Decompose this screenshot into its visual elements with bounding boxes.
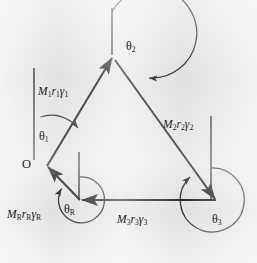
reference-lines-group — [34, 8, 211, 200]
vector-label-M3-magnitude: M — [117, 213, 127, 225]
angle-label-theta2: θ2 — [126, 40, 136, 54]
angle-label-thetaR: θR — [64, 203, 75, 217]
vector-label-M1: M1r1γ1 — [38, 86, 68, 99]
angle-label-thetaR-sub: R — [70, 208, 75, 217]
angle-arc-theta1 — [41, 115, 79, 128]
angle-label-theta1-sub: 1 — [45, 135, 49, 144]
vector-label-M3-gamma-sub: 3 — [144, 218, 148, 227]
vector-MR — [48, 167, 80, 200]
angle-arc-theta2 — [112, 0, 197, 78]
vector-label-MR-magnitude: M — [7, 208, 17, 220]
origin-label: O — [22, 158, 31, 171]
angle-label-theta2-sub: 2 — [132, 45, 136, 54]
vector-label-M2-gamma-sub: 2 — [190, 123, 194, 132]
angle-label-theta1: θ1 — [39, 130, 49, 144]
angle-label-theta3-sub: 3 — [218, 218, 222, 227]
vector-label-M2-magnitude: M — [163, 118, 173, 130]
vector-label-MR: MRrRγR — [7, 209, 41, 222]
vector-label-M1-magnitude: M — [38, 85, 48, 97]
vector-label-M1-gamma-sub: 1 — [65, 90, 69, 99]
vector-M1 — [47, 58, 112, 166]
angle-label-theta3: θ3 — [212, 213, 222, 227]
vector-label-MR-gamma-sub: R — [36, 213, 41, 222]
vector-diagram-figure: O M1r1γ1 θ1 M2r2γ2 θ2 M3r3γ3 θ3 MRrRγR θ… — [0, 0, 257, 263]
vector-label-M3: M3r3γ3 — [117, 214, 147, 227]
vector-label-M2: M2r2γ2 — [163, 119, 193, 132]
